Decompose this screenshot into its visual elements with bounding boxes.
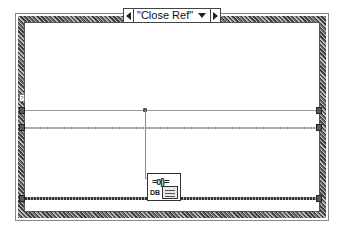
wire-error-in[interactable] bbox=[25, 197, 148, 200]
wire-reference-2[interactable] bbox=[25, 127, 317, 129]
tunnel-right-2[interactable] bbox=[316, 124, 322, 131]
next-case-button[interactable] bbox=[210, 9, 220, 22]
block-diagram: "Close Ref" ? =0|}= DB bbox=[0, 0, 343, 234]
tunnel-flag-icon: ? bbox=[19, 94, 25, 102]
previous-case-button[interactable] bbox=[124, 9, 134, 22]
tunnel-left-error[interactable] bbox=[19, 195, 25, 202]
triangle-left-icon bbox=[126, 12, 131, 20]
wire-reference-1[interactable] bbox=[25, 110, 317, 111]
triangle-down-icon[interactable] bbox=[198, 13, 206, 18]
database-page-icon bbox=[162, 186, 178, 199]
tunnel-right-1[interactable] bbox=[316, 107, 322, 114]
db-label: DB bbox=[150, 189, 160, 196]
triangle-right-icon bbox=[213, 12, 218, 20]
wire-error-out[interactable] bbox=[181, 197, 317, 200]
case-selector[interactable]: "Close Ref" bbox=[123, 8, 221, 23]
wire-reference-branch[interactable] bbox=[145, 110, 146, 179]
tunnel-right-error[interactable] bbox=[316, 195, 322, 202]
tunnel-left-2[interactable] bbox=[19, 124, 25, 131]
db-close-reference-node[interactable]: =0|}= DB bbox=[147, 173, 181, 201]
tunnel-left-1[interactable] bbox=[19, 107, 25, 114]
case-selector-label: "Close Ref" bbox=[134, 9, 198, 22]
